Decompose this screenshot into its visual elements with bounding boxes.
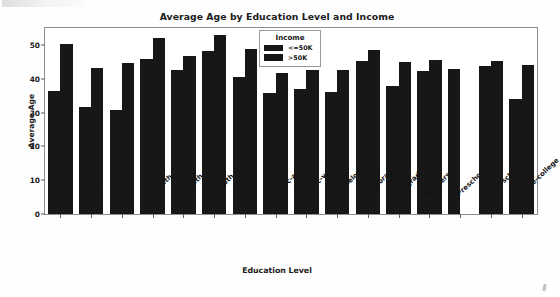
y-axis-tick-mark — [41, 112, 45, 113]
x-axis-tick-mark — [153, 214, 154, 218]
top-edge-artifact — [2, 0, 97, 7]
y-axis-tick-label: 30 — [24, 108, 40, 117]
legend-title: Income — [264, 33, 316, 42]
x-axis-tick-mark — [306, 214, 307, 218]
legend-item-1[interactable]: >50K — [264, 54, 316, 62]
x-axis-tick-mark — [429, 214, 430, 218]
y-axis-tick-mark — [41, 214, 45, 215]
x-axis-tick-mark — [214, 214, 215, 218]
y-axis-tick-label: 20 — [24, 142, 40, 151]
bar-12th-low-income — [110, 110, 122, 214]
x-axis-tick-mark — [399, 214, 400, 218]
legend-item-0[interactable]: <=50K — [264, 44, 316, 52]
y-axis-tick-label: 10 — [24, 176, 40, 185]
bar-some-college-low-income — [509, 99, 521, 214]
legend: Income <=50K >50K — [259, 30, 321, 67]
x-axis-tick-mark — [337, 214, 338, 218]
y-axis-tick-mark — [41, 78, 45, 79]
x-axis-tick-mark — [183, 214, 184, 218]
chart-title: Average Age by Education Level and Incom… — [0, 11, 554, 22]
legend-swatch-icon — [264, 54, 283, 61]
x-axis-tick-mark — [245, 214, 246, 218]
legend-swatch-icon — [264, 45, 283, 52]
y-axis-label: Average Age — [27, 94, 36, 148]
x-axis-tick-mark — [522, 214, 523, 218]
y-axis-tick-mark — [41, 180, 45, 181]
legend-item-label: <=50K — [288, 44, 313, 52]
y-axis-tick-label: 50 — [24, 40, 40, 49]
x-axis-tick-mark — [276, 214, 277, 218]
x-axis-label: Education Level — [0, 266, 554, 275]
x-axis-tick-mark — [368, 214, 369, 218]
x-axis-tick-mark — [60, 214, 61, 218]
y-axis-tick-label: 40 — [24, 74, 40, 83]
x-axis-tick-mark — [491, 214, 492, 218]
x-axis-tick-mark — [460, 214, 461, 218]
y-axis-tick-mark — [41, 44, 45, 45]
y-axis-tick-label: 0 — [24, 210, 40, 219]
x-axis-tick-mark — [91, 214, 92, 218]
y-axis-tick-mark — [41, 146, 45, 147]
page-corner-artifact — [542, 284, 546, 291]
legend-item-label: >50K — [288, 54, 307, 62]
x-axis-tick-mark — [122, 214, 123, 218]
bar-11th-low-income — [79, 107, 91, 214]
